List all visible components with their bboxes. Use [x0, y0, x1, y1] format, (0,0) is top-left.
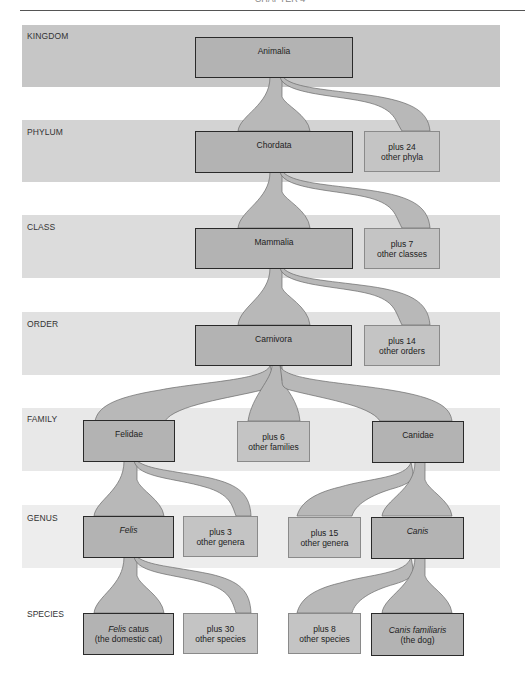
- node-label-line2: other phyla: [381, 152, 423, 162]
- node-other-classes: plus 7 other classes: [364, 228, 440, 269]
- node-felis-catus: Felis catus (the domestic cat): [83, 613, 174, 655]
- node-other-species-dog: plus 8 other species: [288, 613, 361, 654]
- node-animalia: Animalia: [195, 37, 353, 78]
- node-label-line1: Felis catus: [108, 624, 149, 634]
- node-label-line1: plus 6: [262, 432, 285, 442]
- node-canis-familiaris: Canis familiaris (the dog): [371, 613, 464, 656]
- node-label-line2: other orders: [379, 346, 425, 356]
- node-label: Carnivora: [255, 334, 292, 344]
- node-label: Mammalia: [254, 237, 293, 247]
- node-other-species-cat: plus 30 other species: [183, 613, 258, 654]
- node-label: Animalia: [258, 46, 291, 56]
- node-label-line1: plus 24: [388, 142, 415, 152]
- genus-name: Felis: [108, 624, 126, 634]
- node-other-phyla: plus 24 other phyla: [364, 131, 440, 172]
- node-label-line1: Canis familiaris: [389, 625, 447, 635]
- node-label-line2: (the dog): [400, 635, 434, 645]
- node-label: Felis: [120, 525, 138, 535]
- node-other-genera-cat: plus 3 other genera: [183, 516, 258, 557]
- node-label: Felidae: [115, 429, 143, 439]
- node-other-families: plus 6 other families: [237, 421, 310, 462]
- node-label-line2: other species: [299, 634, 350, 644]
- node-carnivora: Carnivora: [195, 325, 352, 366]
- node-label-line1: plus 30: [207, 624, 234, 634]
- node-label-line1: plus 15: [311, 528, 338, 538]
- branch-carnivora-felidae: [95, 365, 274, 421]
- node-label-line1: plus 14: [388, 336, 415, 346]
- node-chordata: Chordata: [195, 131, 353, 173]
- node-label-line2: (the domestic cat): [95, 634, 163, 644]
- node-label-line2: other genera: [196, 537, 244, 547]
- node-label-line2: other genera: [300, 538, 348, 548]
- node-label-line1: plus 8: [313, 624, 336, 634]
- node-canis: Canis: [371, 517, 464, 559]
- node-felidae: Felidae: [83, 420, 175, 462]
- node-label: Chordata: [257, 140, 292, 150]
- node-label-line1: plus 3: [209, 527, 232, 537]
- node-canidae: Canidae: [372, 421, 464, 463]
- node-label-line2: other classes: [377, 249, 427, 259]
- branch-carnivora-canidae: [280, 365, 452, 421]
- node-other-genera-dog: plus 15 other genera: [288, 517, 361, 558]
- node-label: Canis: [407, 526, 429, 536]
- node-label-line2: other species: [195, 634, 246, 644]
- node-mammalia: Mammalia: [195, 228, 353, 269]
- node-label-line1: plus 7: [391, 239, 414, 249]
- species-epithet: catus: [129, 624, 149, 634]
- node-label: Canidae: [402, 430, 434, 440]
- branch-carnivora-other-families: [248, 365, 300, 421]
- node-label-line2: other families: [248, 442, 299, 452]
- node-other-orders: plus 14 other orders: [364, 325, 440, 366]
- node-felis: Felis: [83, 516, 174, 558]
